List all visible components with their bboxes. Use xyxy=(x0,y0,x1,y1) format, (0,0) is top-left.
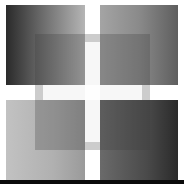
overlay-edge-right xyxy=(142,85,150,100)
overlay-edge-bottom xyxy=(85,142,100,150)
white-cross-vertical xyxy=(85,0,100,184)
overlay-edge-top xyxy=(85,34,100,42)
overlay-edge-left xyxy=(35,85,43,100)
bottom-bar xyxy=(0,180,184,184)
abstract-image xyxy=(0,0,184,184)
